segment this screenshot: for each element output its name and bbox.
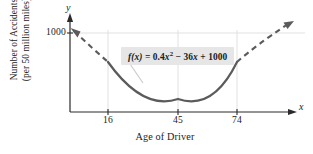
tick-marks — [67, 33, 237, 115]
y-tick-label-1000: 1000 — [32, 26, 66, 37]
equation-term2: − 36 — [173, 52, 193, 62]
y-axis-title-line1: Number of Accidents — [9, 0, 21, 105]
curve-right-arrowhead — [284, 21, 295, 29]
equation-term1-coef: 0.4 — [153, 52, 165, 62]
x-axis-arrowhead — [288, 109, 297, 115]
equation-leader-line — [130, 64, 143, 83]
x-tick-label-16: 16 — [93, 114, 123, 125]
y-axis-arrowhead — [67, 13, 73, 22]
x-tick-label-45: 45 — [163, 114, 193, 125]
equation-term3: + 1000 — [198, 52, 227, 62]
gridlines — [70, 30, 305, 112]
curve-dashed-right — [237, 21, 294, 62]
x-tick-label-74: 74 — [222, 114, 252, 125]
equation-lhs: f(x) = — [128, 52, 153, 62]
x-axis-variable-label: x — [299, 101, 303, 112]
y-axis-title: Number of Accidents (per 50 million mile… — [9, 0, 32, 105]
x-axis-title: Age of Driver — [70, 131, 260, 142]
curve-solid — [108, 62, 237, 101]
equation-callout: f(x) = 0.4x2 − 36x + 1000 — [121, 47, 234, 65]
accident-parabola-figure: Number of Accidents (per 50 million mile… — [0, 0, 313, 154]
y-axis-variable-label: y — [66, 2, 70, 13]
y-axis-title-line2: (per 50 million miles) — [20, 0, 32, 105]
